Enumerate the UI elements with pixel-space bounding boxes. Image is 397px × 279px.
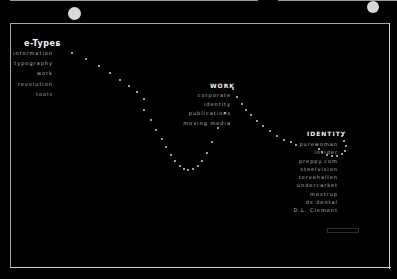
menu-item-publications[interactable]: publications bbox=[183, 109, 231, 118]
menu-item-insider[interactable]: insider bbox=[294, 148, 338, 156]
top-rule-left bbox=[10, 0, 258, 1]
menu-item-information[interactable]: information bbox=[13, 49, 53, 58]
top-rule-right bbox=[278, 0, 397, 1]
menu-item-moving-media[interactable]: moving media bbox=[183, 119, 231, 128]
menu-item-ds-dental[interactable]: ds dental bbox=[294, 198, 338, 206]
menu-item-preppy[interactable]: preppy.com bbox=[294, 157, 338, 165]
menu-item-dl-clement[interactable]: D.L. Clement bbox=[294, 206, 338, 214]
menu-item-torvehallen[interactable]: torvehallen bbox=[294, 173, 338, 181]
menu-item-purewoman[interactable]: purewoman bbox=[294, 140, 338, 148]
blob-decoration-left bbox=[68, 7, 81, 20]
menu-item-work[interactable]: work bbox=[13, 69, 53, 78]
identity-menu: purewoman insider preppy.com steelvision… bbox=[294, 140, 338, 215]
work-title[interactable]: WORK bbox=[210, 82, 235, 89]
menu-item-revolution[interactable]: revolution bbox=[13, 80, 53, 89]
work-menu: corporate identity publications moving m… bbox=[183, 91, 231, 128]
panel-edge-bottom bbox=[10, 267, 391, 268]
menu-item-typography[interactable]: typography bbox=[13, 59, 53, 68]
faint-input-box[interactable] bbox=[327, 228, 359, 233]
etypes-menu: information typography work revolution t… bbox=[13, 49, 53, 99]
menu-item-corporate[interactable]: corporate bbox=[183, 91, 231, 100]
menu-item-identity[interactable]: identity bbox=[183, 100, 231, 109]
blob-decoration-right bbox=[367, 1, 379, 13]
panel-edge-right bbox=[389, 23, 390, 269]
identity-title[interactable]: IDENTITY bbox=[307, 130, 346, 137]
menu-item-undercarket[interactable]: undercarket bbox=[294, 181, 338, 189]
menu-item-tools[interactable]: tools bbox=[13, 90, 53, 99]
menu-item-steelvision[interactable]: steelvision bbox=[294, 165, 338, 173]
menu-item-mestrup[interactable]: mestrup bbox=[294, 190, 338, 198]
etypes-title[interactable]: e-Types bbox=[24, 39, 61, 48]
